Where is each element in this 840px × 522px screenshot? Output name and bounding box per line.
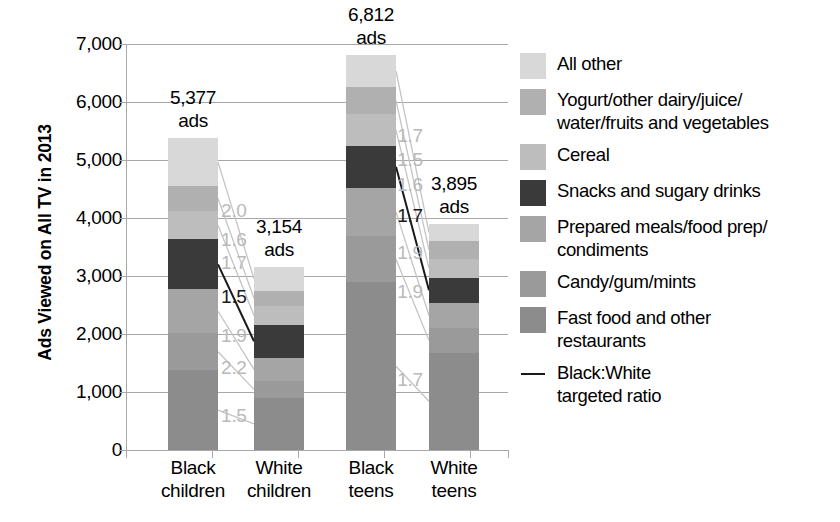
bar-segment-all_other[interactable] [429, 224, 479, 241]
bar-segment-prepared[interactable] [168, 289, 218, 333]
ratio-label: 2.2 [221, 358, 247, 377]
y-tickmark [119, 218, 126, 219]
bar-segment-cereal[interactable] [168, 211, 218, 239]
bar-segment-fast_food[interactable] [346, 282, 396, 450]
bar-total-unit: ads [316, 26, 426, 49]
bar-total-unit: ads [138, 109, 248, 132]
ratio-label: 1.7 [221, 253, 247, 272]
y-tick-label: 6,000 [50, 92, 122, 111]
ratio-label: 1.7 [397, 206, 423, 225]
bar-segment-candy[interactable] [254, 381, 304, 398]
y-tickmark [119, 160, 126, 161]
ratio-label: 1.9 [397, 282, 423, 301]
y-axis-tick-labels: 01,0002,0003,0004,0005,0006,0007,000 [42, 0, 122, 522]
legend-swatch-icon [520, 271, 546, 297]
bar-segment-yogurt[interactable] [429, 241, 479, 258]
bar-segment-yogurt[interactable] [346, 87, 396, 114]
legend-swatch-icon [520, 216, 546, 242]
bar-black-children[interactable] [168, 138, 218, 450]
legend-item[interactable]: Candy/gum/mints [520, 270, 838, 297]
bar-white-children[interactable] [254, 267, 304, 450]
legend-item[interactable]: All other [520, 52, 838, 79]
bar-segment-fast_food[interactable] [429, 353, 479, 450]
legend-item[interactable]: Black:White targeted ratio [520, 361, 838, 407]
ratio-label: 1.5 [397, 150, 423, 169]
ratio-label: 1.7 [397, 126, 423, 145]
bar-segment-all_other[interactable] [168, 138, 218, 186]
ratio-label: 1.6 [397, 175, 423, 194]
legend-item[interactable]: Yogurt/other dairy/juice/ water/fruits a… [520, 88, 838, 134]
bar-total-value: 5,377 [138, 86, 248, 109]
legend-swatch-icon [520, 307, 546, 333]
bar-segment-all_other[interactable] [254, 267, 304, 290]
legend-line-icon [520, 361, 546, 387]
bar-segment-cereal[interactable] [346, 114, 396, 145]
ratio-label: 1.6 [221, 230, 247, 249]
bar-total-label: 5,377ads [138, 86, 248, 132]
y-tick-label: 7,000 [50, 34, 122, 53]
legend-label: Black:White targeted ratio [557, 361, 661, 407]
y-tick-label: 4,000 [50, 208, 122, 227]
y-tickmark [119, 450, 126, 451]
bar-segment-snacks[interactable] [346, 146, 396, 188]
bar-segment-fast_food[interactable] [168, 370, 218, 450]
y-tick-label: 0 [50, 440, 122, 459]
bar-segment-fast_food[interactable] [254, 398, 304, 450]
stacked-bar-chart: Ads Viewed on All TV in 2013 01,0002,000… [0, 0, 840, 522]
legend-label: Prepared meals/food prep/ condiments [557, 215, 767, 261]
bar-segment-snacks[interactable] [254, 325, 304, 358]
x-tickmark [126, 450, 127, 458]
legend-label: Candy/gum/mints [557, 270, 696, 293]
bar-segment-candy[interactable] [346, 236, 396, 282]
legend-label: Snacks and sugary drinks [557, 179, 760, 202]
y-tick-label: 2,000 [50, 324, 122, 343]
bar-segment-yogurt[interactable] [168, 186, 218, 211]
ratio-label: 1.7 [397, 370, 423, 389]
bar-segment-yogurt[interactable] [254, 291, 304, 307]
x-axis-label-line: teens [396, 479, 512, 502]
bar-segment-candy[interactable] [168, 333, 218, 370]
y-tick-label: 1,000 [50, 382, 122, 401]
bar-segment-snacks[interactable] [429, 278, 479, 303]
legend-item[interactable]: Snacks and sugary drinks [520, 179, 838, 206]
bar-segment-snacks[interactable] [168, 239, 218, 289]
y-tickmark [119, 102, 126, 103]
y-tick-label: 3,000 [50, 266, 122, 285]
ratio-label: 1.5 [221, 406, 247, 425]
ratio-label: 1.9 [397, 243, 423, 262]
y-tickmark [119, 276, 126, 277]
y-tickmark [119, 44, 126, 45]
legend-label: Fast food and other restaurants [557, 306, 711, 352]
bar-white-teens[interactable] [429, 224, 479, 450]
ratio-label: 2.0 [221, 201, 247, 220]
legend-swatch-icon [520, 89, 546, 115]
legend-swatch-icon [520, 144, 546, 170]
y-tickmark [119, 334, 126, 335]
y-tickmark [119, 392, 126, 393]
ratio-label: 1.9 [221, 326, 247, 345]
bar-segment-prepared[interactable] [429, 303, 479, 329]
bar-segment-cereal[interactable] [254, 306, 304, 325]
x-axis-label: Whiteteens [396, 456, 512, 502]
ratio-label: 1.5 [221, 287, 247, 306]
bar-total-value: 6,812 [316, 3, 426, 26]
bar-segment-prepared[interactable] [254, 358, 304, 381]
bar-segment-prepared[interactable] [346, 188, 396, 236]
y-tick-label: 5,000 [50, 150, 122, 169]
bar-segment-cereal[interactable] [429, 259, 479, 278]
legend-item[interactable]: Cereal [520, 143, 838, 170]
legend-swatch-icon [520, 180, 546, 206]
bar-segment-candy[interactable] [429, 328, 479, 352]
gridline [126, 450, 508, 451]
bar-total-label: 6,812ads [316, 3, 426, 49]
legend-item[interactable]: Prepared meals/food prep/ condiments [520, 215, 838, 261]
bar-black-teens[interactable] [346, 55, 396, 450]
legend-label: All other [557, 52, 622, 75]
legend: All otherYogurt/other dairy/juice/ water… [520, 52, 838, 416]
legend-label: Yogurt/other dairy/juice/ water/fruits a… [557, 88, 769, 134]
legend-item[interactable]: Fast food and other restaurants [520, 306, 838, 352]
x-axis-label-line: White [396, 456, 512, 479]
legend-swatch-icon [520, 53, 546, 79]
legend-label: Cereal [557, 143, 609, 166]
bar-segment-all_other[interactable] [346, 55, 396, 87]
